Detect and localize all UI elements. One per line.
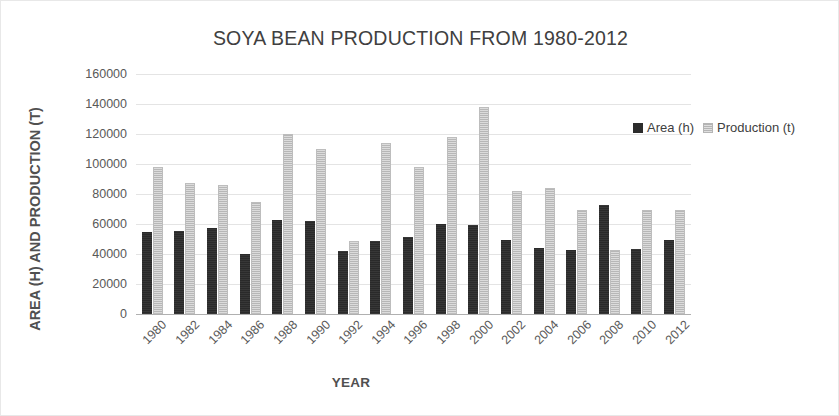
x-axis-tick-label: 1994 <box>368 318 398 348</box>
bar-area[interactable] <box>174 231 184 314</box>
y-axis-tick-label: 100000 <box>85 157 127 171</box>
x-axis-tick-cell: 2012 <box>658 318 691 372</box>
bar-group <box>626 74 659 314</box>
x-axis-tick-cell: 1988 <box>267 318 300 372</box>
x-axis-tick-label: 1986 <box>238 318 268 348</box>
bar-area[interactable] <box>240 254 250 314</box>
bar-production[interactable] <box>479 107 489 314</box>
x-axis-tick-cell: 2002 <box>495 318 528 372</box>
y-axis-tick-label: 120000 <box>85 127 127 141</box>
bar-production[interactable] <box>610 250 620 315</box>
bar-group <box>299 74 332 314</box>
x-axis-tick-cell: 1982 <box>169 318 202 372</box>
bar-groups <box>136 74 691 314</box>
bar-group <box>169 74 202 314</box>
x-axis-tick-cell: 1996 <box>397 318 430 372</box>
x-axis-tick-cell: 2010 <box>626 318 659 372</box>
bar-area[interactable] <box>403 237 413 314</box>
x-axis-tick-cell: 1992 <box>332 318 365 372</box>
y-axis-tick-label: 60000 <box>92 217 127 231</box>
x-axis-tick-label: 1996 <box>401 318 431 348</box>
bar-group <box>332 74 365 314</box>
legend-item[interactable]: Area (h) <box>633 120 694 135</box>
x-axis-tick-cell: 2006 <box>560 318 593 372</box>
x-axis-tick-label: 2010 <box>630 318 660 348</box>
x-axis-tick-label: 1982 <box>173 318 203 348</box>
x-axis-tick-labels: 1980198219841986198819901992199419961998… <box>136 318 691 372</box>
x-axis-tick-cell: 2004 <box>528 318 561 372</box>
plot-area: 1600001400001200001000008000060000400002… <box>136 74 691 314</box>
x-axis-tick-cell: 1986 <box>234 318 267 372</box>
bar-production[interactable] <box>185 183 195 314</box>
y-axis-tick-label: 20000 <box>92 277 127 291</box>
bar-area[interactable] <box>468 225 478 314</box>
bar-production[interactable] <box>642 210 652 314</box>
x-axis-tick-cell: 1984 <box>201 318 234 372</box>
x-axis-tick-label: 2008 <box>597 318 627 348</box>
bar-area[interactable] <box>272 220 282 315</box>
y-axis-tick-label: 160000 <box>85 67 127 81</box>
x-axis-tick-label: 2006 <box>564 318 594 348</box>
legend-item-label: Production (t) <box>717 120 795 135</box>
bar-production[interactable] <box>414 167 424 314</box>
bar-group <box>364 74 397 314</box>
y-axis-tick-label: 0 <box>120 307 127 321</box>
x-axis-tick-label: 2004 <box>532 318 562 348</box>
x-axis-tick-label: 1992 <box>336 318 366 348</box>
bar-production[interactable] <box>545 188 555 314</box>
bar-group <box>430 74 463 314</box>
x-axis-tick-cell: 2000 <box>462 318 495 372</box>
bar-area[interactable] <box>599 205 609 315</box>
bar-production[interactable] <box>512 191 522 314</box>
bar-area[interactable] <box>370 241 380 315</box>
x-axis-line <box>136 314 691 315</box>
bar-production[interactable] <box>675 210 685 314</box>
bar-group <box>201 74 234 314</box>
x-axis-tick-cell: 1990 <box>299 318 332 372</box>
bar-production[interactable] <box>153 167 163 314</box>
bar-area[interactable] <box>142 232 152 315</box>
bar-area[interactable] <box>631 249 641 314</box>
bar-area[interactable] <box>501 240 511 314</box>
y-axis-title: AREA (H) AND PRODUCTION (T) <box>23 69 47 369</box>
chart-legend: Area (h)Production (t) <box>633 120 795 135</box>
bar-production[interactable] <box>251 202 261 315</box>
bar-group <box>658 74 691 314</box>
bar-group <box>397 74 430 314</box>
bar-area[interactable] <box>436 224 446 314</box>
bar-production[interactable] <box>316 149 326 314</box>
x-axis-tick-label: 1980 <box>140 318 170 348</box>
bar-group <box>593 74 626 314</box>
bar-area[interactable] <box>664 240 674 314</box>
y-axis-title-text: AREA (H) AND PRODUCTION (T) <box>27 107 43 331</box>
x-axis-tick-label: 2012 <box>662 318 692 348</box>
bar-group <box>136 74 169 314</box>
bar-group <box>528 74 561 314</box>
bar-production[interactable] <box>447 137 457 314</box>
x-axis-tick-label: 2002 <box>499 318 529 348</box>
bar-group <box>267 74 300 314</box>
bar-production[interactable] <box>218 185 228 314</box>
bar-production[interactable] <box>283 134 293 314</box>
x-axis-tick-cell: 1980 <box>136 318 169 372</box>
bar-group <box>462 74 495 314</box>
bar-area[interactable] <box>338 251 348 314</box>
x-axis-tick-label: 1990 <box>303 318 333 348</box>
legend-item[interactable]: Production (t) <box>703 120 795 135</box>
bar-production[interactable] <box>349 241 359 315</box>
x-axis-tick-cell: 2008 <box>593 318 626 372</box>
x-axis-tick-label: 2000 <box>466 318 496 348</box>
x-axis-tick-label: 1988 <box>271 318 301 348</box>
x-axis-tick-cell: 1994 <box>364 318 397 372</box>
light-swatch-icon <box>703 123 713 133</box>
dark-swatch-icon <box>633 123 643 133</box>
bar-group <box>560 74 593 314</box>
bar-area[interactable] <box>207 228 217 314</box>
bar-production[interactable] <box>381 143 391 314</box>
bar-area[interactable] <box>566 250 576 314</box>
bar-area[interactable] <box>534 248 544 314</box>
bar-production[interactable] <box>577 210 587 314</box>
x-axis-title: YEAR <box>1 375 701 390</box>
bar-area[interactable] <box>305 221 315 314</box>
y-axis-tick-label: 40000 <box>92 247 127 261</box>
